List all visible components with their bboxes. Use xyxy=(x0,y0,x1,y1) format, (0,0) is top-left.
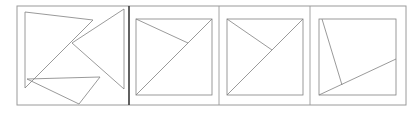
figure-root xyxy=(0,0,418,116)
tangram-figure xyxy=(0,0,418,116)
figure-background xyxy=(0,0,418,116)
